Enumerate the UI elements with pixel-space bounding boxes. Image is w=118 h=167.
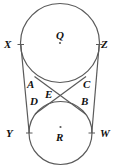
center-dot-r	[59, 126, 61, 128]
circle-center-label-r: R	[56, 132, 63, 143]
point-label-z: Z	[101, 39, 108, 50]
point-label-d: D	[30, 96, 38, 107]
external-tangent-zw	[92, 45, 99, 134]
geometry-diagram: X Z A C E D B Y W Q R	[0, 0, 118, 167]
point-label-c: C	[83, 79, 90, 90]
point-label-w: W	[100, 128, 110, 139]
center-dot-q	[59, 42, 61, 44]
circle-center-label-q: Q	[56, 30, 64, 41]
point-label-b: B	[81, 96, 88, 107]
point-label-x: X	[4, 39, 11, 50]
point-label-y: Y	[6, 128, 13, 139]
point-label-a: A	[27, 79, 34, 90]
point-label-e: E	[45, 89, 52, 100]
